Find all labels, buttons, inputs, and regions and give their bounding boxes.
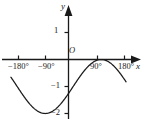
y-axis-arrowhead xyxy=(65,5,73,16)
y-tick-label--2: −2 xyxy=(51,108,60,117)
y-axis-label: y xyxy=(61,2,65,11)
y-tick-label--1: −1 xyxy=(51,81,60,90)
origin-label: O xyxy=(69,46,75,55)
x-tick-label--90: −90° xyxy=(38,62,55,71)
math-graph-figure: −180° −90° 90° 180° 1 −1 −2 y x O xyxy=(0,0,144,121)
x-axis-label: x xyxy=(136,62,140,71)
x-tick-label--180: −180° xyxy=(8,62,29,71)
x-tick-label-90: 90° xyxy=(90,62,102,71)
y-tick-label-1: 1 xyxy=(54,26,58,35)
x-tick-label-180: 180° xyxy=(118,62,134,71)
y-axis xyxy=(65,5,73,119)
